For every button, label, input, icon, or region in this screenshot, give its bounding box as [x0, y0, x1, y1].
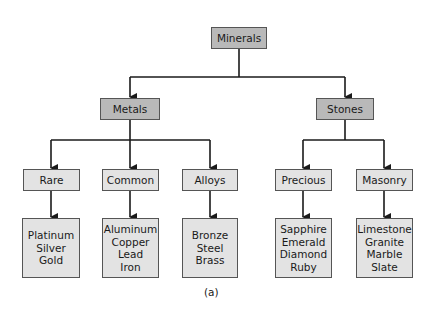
- leaf-item: Platinum: [28, 229, 74, 242]
- figure-caption: (a): [204, 286, 219, 298]
- leaf-precious-items: Sapphire Emerald Diamond Ruby: [275, 218, 332, 278]
- node-precious: Precious: [275, 169, 332, 191]
- leaf-rare-items: Platinum Silver Gold: [22, 218, 80, 278]
- node-common: Common: [102, 169, 159, 191]
- leaf-item: Bronze: [192, 229, 228, 242]
- leaf-common-items: Aluminum Copper Lead Iron: [102, 218, 159, 278]
- leaf-masonry-items: Limestone Granite Marble Slate: [356, 218, 413, 278]
- node-alloys: Alloys: [182, 169, 238, 191]
- leaf-item: Sapphire: [280, 223, 327, 236]
- node-label: Rare: [39, 174, 63, 187]
- leaf-item: Marble: [357, 248, 412, 261]
- node-label: Stones: [327, 103, 363, 116]
- node-label: Masonry: [362, 174, 407, 187]
- leaf-item: Slate: [357, 261, 412, 274]
- leaf-item: Granite: [357, 236, 412, 249]
- leaf-item: Lead: [104, 248, 157, 261]
- leaf-item: Limestone: [357, 223, 412, 236]
- node-masonry: Masonry: [356, 169, 413, 191]
- node-metals: Metals: [100, 98, 160, 120]
- leaf-item: Silver: [28, 242, 74, 255]
- leaf-item: Brass: [192, 254, 228, 267]
- leaf-item: Emerald: [280, 236, 327, 249]
- node-label: Common: [107, 174, 154, 187]
- node-minerals: Minerals: [211, 27, 267, 49]
- leaf-item: Gold: [28, 254, 74, 267]
- leaf-item: Aluminum: [104, 223, 157, 236]
- node-label: Minerals: [217, 32, 261, 45]
- leaf-item: Ruby: [280, 261, 327, 274]
- leaf-item: Copper: [104, 236, 157, 249]
- leaf-item: Diamond: [280, 248, 327, 261]
- leaf-alloys-items: Bronze Steel Brass: [182, 218, 238, 278]
- node-label: Metals: [113, 103, 147, 116]
- leaf-item: Iron: [104, 261, 157, 274]
- node-label: Precious: [282, 174, 326, 187]
- leaf-item: Steel: [192, 242, 228, 255]
- node-stones: Stones: [316, 98, 374, 120]
- node-rare: Rare: [23, 169, 80, 191]
- node-label: Alloys: [194, 174, 225, 187]
